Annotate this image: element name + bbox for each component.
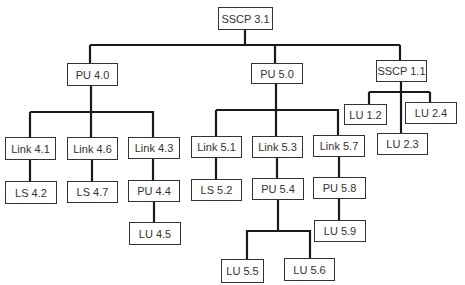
node-label: LU 5.5: [226, 265, 258, 277]
node-label: SSCP 1.1: [377, 65, 425, 77]
node-lu-4-5: LU 4.5: [129, 222, 181, 245]
node-lu-5-9: LU 5.9: [314, 220, 366, 242]
node-lu-2-4: LU 2.4: [405, 102, 457, 124]
node-label: Link 5.7: [320, 140, 359, 152]
node-label: LU 1.2: [349, 109, 381, 121]
node-label: LU 4.5: [139, 228, 171, 240]
node-lu-1-2: LU 1.2: [344, 104, 387, 125]
node-label: LU 2.3: [386, 138, 418, 150]
node-lu-2-3: LU 2.3: [377, 133, 428, 155]
node-label: LS 4.7: [77, 186, 109, 198]
node-label: PU 5.0: [260, 68, 294, 80]
node-link-4-1: Link 4.1: [5, 137, 56, 160]
node-lu-5-6: LU 5.6: [284, 258, 335, 281]
node-pu-5-8: PU 5.8: [313, 177, 366, 199]
node-label: SSCP 3.1: [221, 13, 269, 25]
node-label: PU 5.8: [323, 182, 357, 194]
node-lu-5-5: LU 5.5: [221, 259, 264, 283]
node-pu-4-4: PU 4.4: [128, 180, 180, 202]
edge-pu54-bar-h: [247, 231, 310, 259]
node-label: PU 4.4: [137, 185, 171, 197]
node-ls-4-2: LS 4.2: [5, 181, 57, 204]
node-label: Link 4.1: [11, 143, 50, 155]
node-label: PU 5.4: [261, 183, 295, 195]
node-label: LU 5.9: [324, 225, 356, 237]
node-link-4-6: Link 4.6: [67, 137, 118, 160]
node-pu-4-0: PU 4.0: [67, 63, 118, 86]
node-label: Link 5.1: [197, 141, 236, 153]
node-label: Link 4.3: [135, 142, 174, 154]
node-link-4-3: Link 4.3: [128, 137, 180, 159]
node-sscp-1-1: SSCP 1.1: [376, 60, 427, 82]
node-label: LU 5.6: [293, 264, 325, 276]
node-label: LS 4.2: [15, 187, 47, 199]
node-link-5-1: Link 5.1: [191, 136, 242, 158]
node-label: Link 4.6: [73, 143, 112, 155]
node-label: PU 4.0: [76, 69, 110, 81]
node-label: LS 5.2: [201, 184, 233, 196]
node-label: Link 5.3: [258, 141, 297, 153]
node-link-5-3: Link 5.3: [252, 136, 303, 158]
node-pu-5-0: PU 5.0: [251, 63, 303, 84]
node-label: LU 2.4: [415, 107, 447, 119]
node-ls-5-2: LS 5.2: [191, 179, 242, 201]
node-pu-5-4: PU 5.4: [252, 178, 304, 200]
node-sscp-3-1: SSCP 3.1: [218, 7, 273, 30]
node-link-5-7: Link 5.7: [313, 135, 365, 157]
node-ls-4-7: LS 4.7: [67, 181, 118, 203]
